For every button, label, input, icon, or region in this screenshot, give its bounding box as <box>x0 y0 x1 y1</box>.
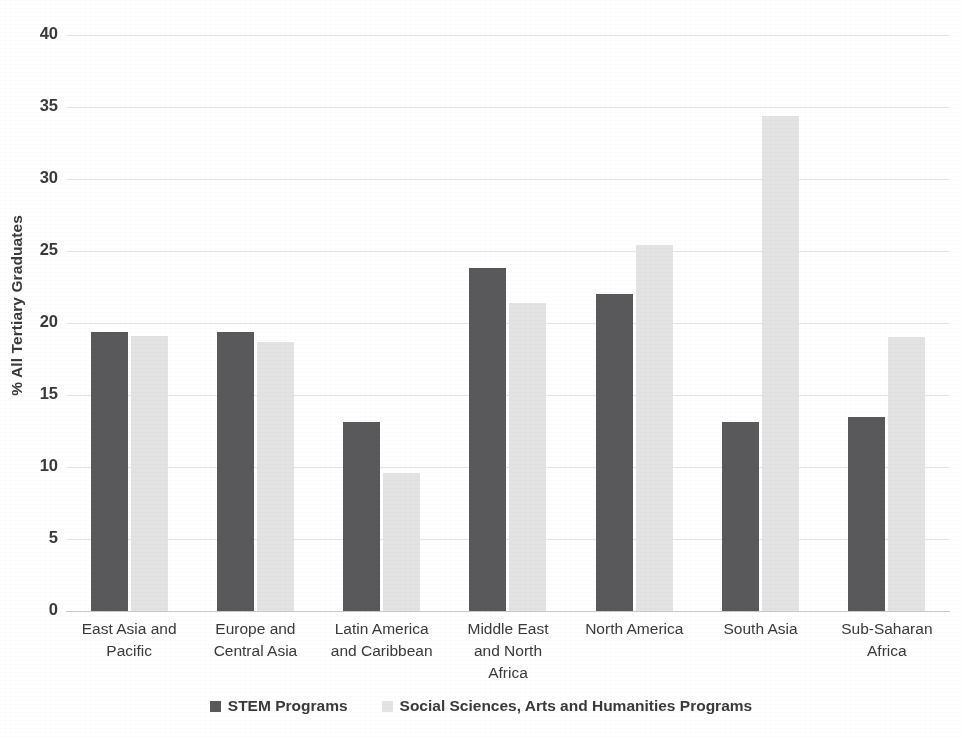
x-axis-category-labels: East Asia andPacificEurope andCentral As… <box>66 618 950 688</box>
bar-stem <box>848 417 885 611</box>
legend-item[interactable]: STEM Programs <box>210 697 348 715</box>
bar-stem <box>722 422 759 611</box>
x-axis-category-label: Latin Americaand Caribbean <box>319 618 445 662</box>
x-axis-label-line: Middle East <box>445 618 571 640</box>
bar-group <box>319 35 445 611</box>
bar-group <box>66 35 192 611</box>
y-axis-tick-label: 10 <box>18 456 58 475</box>
legend-label: STEM Programs <box>228 697 348 715</box>
x-axis-label-line: East Asia and <box>66 618 192 640</box>
bar-social-sciences-arts-humanities <box>762 116 799 611</box>
bar-social-sciences-arts-humanities <box>131 336 168 611</box>
x-axis-category-label: Europe andCentral Asia <box>192 618 318 662</box>
x-axis-category-label: East Asia andPacific <box>66 618 192 662</box>
bar-social-sciences-arts-humanities <box>636 245 673 611</box>
y-axis-tick-label: 40 <box>18 24 58 43</box>
bar-social-sciences-arts-humanities <box>888 337 925 611</box>
x-axis-label-line: Sub-Saharan <box>824 618 950 640</box>
x-axis-label-line: Africa <box>445 662 571 684</box>
y-axis-tick-label: 15 <box>18 384 58 403</box>
legend-label: Social Sciences, Arts and Humanities Pro… <box>400 697 753 715</box>
x-axis-category-label: Middle Eastand NorthAfrica <box>445 618 571 684</box>
bar-chart-figure: % All Tertiary Graduates 051015202530354… <box>0 0 962 737</box>
plot-area <box>66 35 950 611</box>
x-axis-label-line: South Asia <box>697 618 823 640</box>
x-axis-category-label: North America <box>571 618 697 640</box>
legend-swatch-icon <box>382 701 393 712</box>
y-axis-tick-label: 0 <box>18 600 58 619</box>
bar-stem <box>343 422 380 611</box>
y-axis-tick-label: 35 <box>18 96 58 115</box>
x-axis-label-line: North America <box>571 618 697 640</box>
bar-stem <box>596 294 633 611</box>
x-axis-label-line: Europe and <box>192 618 318 640</box>
y-axis-tick-label: 20 <box>18 312 58 331</box>
bar-group <box>192 35 318 611</box>
bar-social-sciences-arts-humanities <box>383 473 420 611</box>
bar-stem <box>217 332 254 611</box>
bar-group <box>697 35 823 611</box>
bar-group <box>445 35 571 611</box>
y-axis-tick-label: 30 <box>18 168 58 187</box>
bar-group <box>571 35 697 611</box>
y-axis-tick-label: 25 <box>18 240 58 259</box>
x-axis-label-line: Central Asia <box>192 640 318 662</box>
bar-group <box>824 35 950 611</box>
bar-social-sciences-arts-humanities <box>257 342 294 611</box>
x-axis-label-line: and North <box>445 640 571 662</box>
chart-legend: STEM ProgramsSocial Sciences, Arts and H… <box>0 697 962 715</box>
x-axis-label-line: Pacific <box>66 640 192 662</box>
bar-social-sciences-arts-humanities <box>509 303 546 611</box>
x-axis-label-line: Latin America <box>319 618 445 640</box>
x-axis-category-label: South Asia <box>697 618 823 640</box>
x-axis-category-label: Sub-SaharanAfrica <box>824 618 950 662</box>
bar-stem <box>469 268 506 611</box>
y-axis-tick-label: 5 <box>18 528 58 547</box>
legend-swatch-icon <box>210 701 221 712</box>
x-axis-label-line: and Caribbean <box>319 640 445 662</box>
legend-item[interactable]: Social Sciences, Arts and Humanities Pro… <box>382 697 753 715</box>
y-axis-tick-labels: 0510152025303540 <box>0 0 62 737</box>
bar-stem <box>91 332 128 611</box>
x-axis-label-line: Africa <box>824 640 950 662</box>
